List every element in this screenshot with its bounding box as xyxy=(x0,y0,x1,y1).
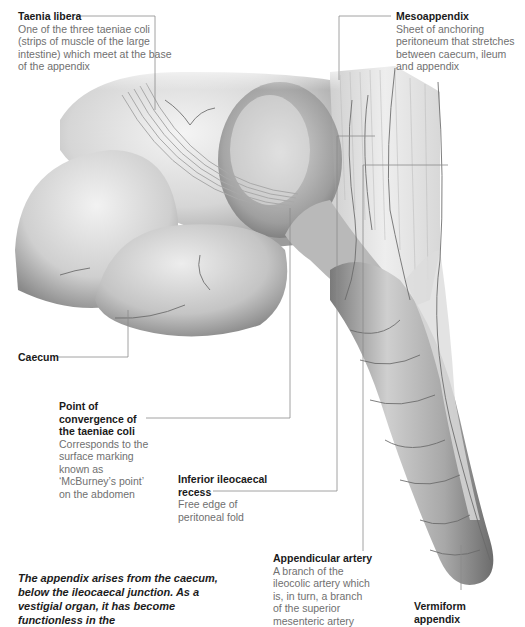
label-appendicular-artery: Appendicular artery A branch of the ileo… xyxy=(273,552,373,627)
label-description: Sheet of anchoring peritoneum that stret… xyxy=(396,23,525,73)
label-vermiform-appendix: Vermiform appendix xyxy=(414,600,474,625)
caption-text: The appendix arises from the caecum, bel… xyxy=(18,571,218,627)
label-title: Mesoappendix xyxy=(396,10,525,23)
label-title: Vermiform appendix xyxy=(414,600,474,625)
label-description: One of the three taeniae coli (strips of… xyxy=(18,23,173,73)
label-title: Inferior ileocaecal recess xyxy=(178,473,268,498)
label-title: Point of convergence of the taeniae coli xyxy=(59,400,154,438)
label-point-of-convergence: Point of convergence of the taeniae coli… xyxy=(59,400,154,500)
label-caecum: Caecum xyxy=(18,351,78,364)
label-description: Free edge of peritoneal fold xyxy=(178,498,268,523)
label-description: A branch of the ileocolic artery which i… xyxy=(273,565,373,627)
label-mesoappendix: Mesoappendix Sheet of anchoring peritone… xyxy=(396,10,525,73)
label-inferior-ileocaecal-recess: Inferior ileocaecal recess Free edge of … xyxy=(178,473,268,523)
label-description: Corresponds to the surface marking known… xyxy=(59,438,154,501)
label-title: Caecum xyxy=(18,351,78,364)
label-title: Taenia libera xyxy=(18,10,173,23)
label-title: Appendicular artery xyxy=(273,552,373,565)
label-taenia-libera: Taenia libera One of the three taeniae c… xyxy=(18,10,173,73)
